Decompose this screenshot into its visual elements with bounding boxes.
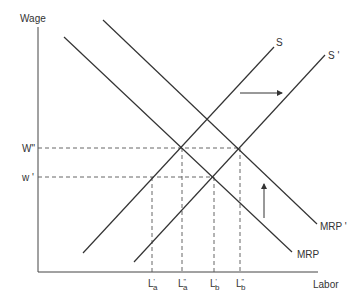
- guide-lines: [38, 148, 240, 272]
- svg-text:L"a: L"a: [178, 278, 188, 292]
- x-tick-la-double-prime: L"a: [178, 278, 188, 292]
- supply-curve-s: [83, 47, 274, 253]
- labor-market-diagram: Wage Labor W" w ' L'a L"a L'b L"b S S ' …: [0, 0, 358, 305]
- svg-text:L"b: L"b: [236, 278, 246, 292]
- y-axis-label: Wage: [20, 13, 46, 24]
- x-tick-lb-prime: L'b: [210, 278, 220, 292]
- label-s: S: [276, 37, 283, 48]
- label-s-prime: S ': [328, 50, 339, 61]
- svg-text:L'b: L'b: [210, 278, 220, 292]
- x-tick-lb-double-prime: L"b: [236, 278, 246, 292]
- demand-curve-mrp-prime: [103, 20, 317, 224]
- svg-text:L'a: L'a: [148, 278, 158, 292]
- label-mrp: MRP: [297, 249, 320, 260]
- x-axis-label: Labor: [313, 279, 339, 290]
- label-mrp-prime: MRP ': [320, 221, 347, 232]
- y-tick-w-double-prime: W": [22, 143, 35, 154]
- x-tick-la-prime: L'a: [148, 278, 158, 292]
- y-tick-w-prime: w ': [21, 172, 34, 183]
- supply-curve-s-prime: [134, 55, 325, 262]
- demand-curve-mrp: [64, 37, 292, 252]
